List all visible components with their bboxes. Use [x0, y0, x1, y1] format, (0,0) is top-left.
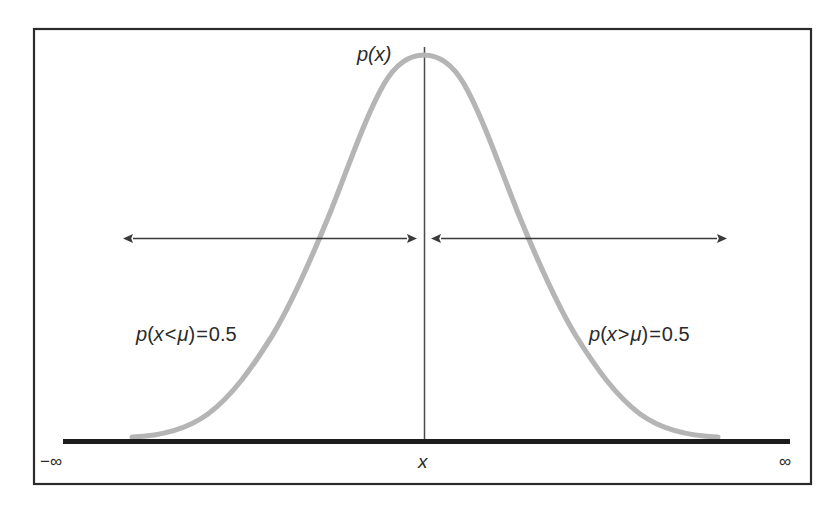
x-axis-label: x — [418, 452, 428, 471]
right-expr-value: 0.5 — [662, 323, 690, 345]
right-expr-param: μ — [630, 323, 641, 345]
left-expr-fn: p — [136, 323, 147, 345]
right-expr-open: ( — [600, 323, 607, 345]
right-expr-operator: > — [617, 323, 631, 345]
figure-container: p(x) x −∞ ∞ p(x<μ)=0.5 p(x>μ)=0.5 — [0, 0, 839, 510]
gaussian-distribution-figure — [0, 0, 839, 510]
right-expr-equals: = — [648, 323, 662, 345]
left-expr-operator: < — [164, 323, 178, 345]
curve-label-px: p(x) — [357, 44, 391, 64]
left-expr-equals: = — [195, 323, 209, 345]
right-expr-var: x — [607, 323, 617, 345]
left-probability-annotation: p(x<μ)=0.5 — [136, 324, 237, 344]
left-expr-value: 0.5 — [209, 323, 237, 345]
left-expr-var: x — [154, 323, 164, 345]
figure-frame — [34, 29, 811, 484]
axis-positive-infinity-label: ∞ — [779, 453, 791, 470]
right-probability-annotation: p(x>μ)=0.5 — [589, 324, 690, 344]
axis-negative-infinity-label: −∞ — [40, 453, 62, 470]
right-expr-fn: p — [589, 323, 600, 345]
left-expr-param: μ — [177, 323, 188, 345]
left-expr-open: ( — [147, 323, 154, 345]
